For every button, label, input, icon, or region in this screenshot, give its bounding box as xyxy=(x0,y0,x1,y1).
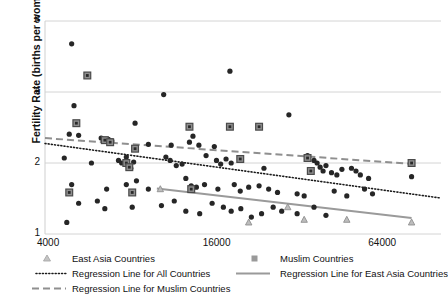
data-point-square-core xyxy=(75,122,78,125)
data-point-circle xyxy=(196,143,201,148)
data-point-circle xyxy=(329,170,334,175)
y-tick-label-4: 4 xyxy=(14,85,40,96)
data-point-circle xyxy=(132,121,137,126)
data-point-circle xyxy=(320,168,325,173)
legend-label-muslim-countries: Muslim Countries xyxy=(280,253,353,264)
data-point-circle xyxy=(323,163,328,168)
data-point-circle xyxy=(249,214,254,219)
data-point-circle xyxy=(259,211,264,216)
data-point-circle xyxy=(89,160,94,165)
data-point-circle xyxy=(315,160,320,165)
data-point-square-core xyxy=(109,141,112,144)
data-point-circle xyxy=(102,206,107,211)
data-point-circle xyxy=(362,187,367,192)
data-point-circle xyxy=(76,133,81,138)
data-point-circle xyxy=(130,205,135,210)
data-point-circle xyxy=(62,155,67,160)
data-point-circle xyxy=(183,209,188,214)
data-point-circle xyxy=(227,69,232,74)
legend-marker-square xyxy=(252,256,258,262)
data-point-circle xyxy=(179,161,184,166)
data-point-square-core xyxy=(188,125,191,128)
data-point-square-core xyxy=(86,74,89,77)
data-point-circle xyxy=(271,205,276,210)
data-point-circle xyxy=(95,198,100,203)
data-point-square-core xyxy=(190,188,193,191)
data-point-circle xyxy=(332,189,337,194)
data-point-circle xyxy=(295,191,300,196)
data-point-circle xyxy=(358,172,363,177)
data-point-triangle xyxy=(301,216,307,222)
legend-label-east-asia-countries: East Asia Countries xyxy=(72,253,155,264)
data-point-circle xyxy=(238,189,243,194)
data-point-circle xyxy=(246,185,251,190)
data-point-circle xyxy=(370,191,375,196)
legend-label-regression-line-for-east-asia-countries: Regression Line for East Asia Countries xyxy=(280,268,448,279)
data-point-circle xyxy=(146,142,151,147)
data-point-circle xyxy=(69,182,74,187)
data-point-circle xyxy=(366,176,371,181)
data-point-circle xyxy=(161,92,166,97)
data-point-circle xyxy=(202,182,207,187)
data-point-square-core xyxy=(128,166,131,169)
data-point-circle xyxy=(172,198,177,203)
data-point-circle xyxy=(339,167,344,172)
data-point-circle xyxy=(124,182,129,187)
x-tick-label-4000: 4000 xyxy=(37,237,59,248)
data-point-circle xyxy=(295,211,300,216)
data-point-circle xyxy=(229,160,234,165)
data-point-circle xyxy=(279,209,284,214)
data-point-circle xyxy=(71,103,76,108)
data-point-circle xyxy=(229,209,234,214)
data-point-square-core xyxy=(306,157,309,160)
data-point-circle xyxy=(203,153,208,158)
data-point-circle xyxy=(221,205,226,210)
data-point-circle xyxy=(344,193,349,198)
x-tick-label-64000: 64000 xyxy=(368,237,396,248)
data-point-circle xyxy=(256,183,261,188)
data-point-circle xyxy=(190,134,195,139)
data-point-circle xyxy=(134,178,139,183)
data-point-circle xyxy=(67,132,72,137)
data-point-square-core xyxy=(258,125,261,128)
x-tick-label-16000: 16000 xyxy=(203,237,231,248)
data-point-square-core xyxy=(229,125,232,128)
data-point-circle xyxy=(334,172,339,177)
data-point-circle xyxy=(69,41,74,46)
data-point-circle xyxy=(163,154,168,159)
data-point-square-core xyxy=(131,191,134,194)
data-point-circle xyxy=(215,187,220,192)
data-point-circle xyxy=(169,143,174,148)
data-point-circle xyxy=(223,156,228,161)
data-point-circle xyxy=(409,174,414,179)
data-point-triangle xyxy=(408,219,414,225)
data-point-circle xyxy=(218,161,223,166)
data-point-circle xyxy=(187,140,192,145)
data-point-circle xyxy=(104,187,109,192)
data-point-circle xyxy=(159,203,164,208)
data-point-circle xyxy=(238,206,243,211)
data-point-square-core xyxy=(134,147,137,150)
data-point-square-core xyxy=(68,191,71,194)
legend-marker-triangle xyxy=(44,255,51,261)
data-point-circle xyxy=(286,112,291,117)
data-point-circle xyxy=(323,213,328,218)
data-point-circle xyxy=(174,163,179,168)
data-point-triangle xyxy=(344,216,350,222)
data-point-circle xyxy=(311,205,316,210)
data-point-triangle xyxy=(245,219,251,225)
data-point-square-core xyxy=(410,162,413,165)
data-point-circle xyxy=(353,168,358,173)
data-point-circle xyxy=(124,154,129,159)
data-point-circle xyxy=(76,201,81,206)
data-point-circle xyxy=(168,158,173,163)
data-point-square-core xyxy=(239,158,242,161)
data-point-circle xyxy=(232,182,237,187)
data-point-circle xyxy=(146,187,151,192)
legend-label-regression-line-for-all-countries: Regression Line for All Countries xyxy=(72,268,210,279)
data-point-circle xyxy=(214,158,219,163)
data-point-circle xyxy=(261,166,266,171)
legend-label-regression-line-for-muslim-countries: Regression Line for Muslim Countries xyxy=(72,283,230,294)
data-point-square-core xyxy=(103,139,106,142)
